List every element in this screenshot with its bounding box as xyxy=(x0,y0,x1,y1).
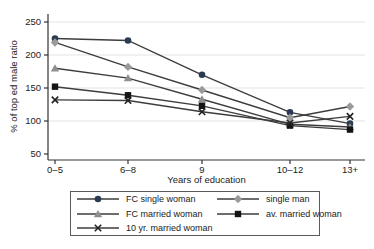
legend-label: single man xyxy=(266,194,310,204)
data-point-av-married-woman-13 xyxy=(347,126,353,132)
data-point-fc-single-woman-9 xyxy=(199,72,206,79)
y-tick-label-250: 250 xyxy=(25,16,41,27)
y-axis-title: % of top ed male ratio xyxy=(8,17,19,157)
data-point-av-married-woman-0-5 xyxy=(52,83,58,89)
legend-entry-single-man: single man xyxy=(216,192,342,206)
legend-label: 10 yr. married woman xyxy=(126,223,213,233)
legend-entry-fc-single-woman: FC single woman xyxy=(76,192,216,206)
chart-figure: 501001502002500–56–8910–1213+ % of top e… xyxy=(0,0,374,249)
y-tick-label-100: 100 xyxy=(25,115,41,126)
legend-label: FC married woman xyxy=(126,209,203,219)
data-point-single-man-6-8 xyxy=(124,63,132,71)
legend-marker-sample xyxy=(235,210,241,216)
legend-marker-square-icon xyxy=(216,208,260,220)
legend-marker-triangle-icon xyxy=(76,208,120,220)
chart-legend: FC single womansingle manFC married woma… xyxy=(70,191,320,236)
y-tick-label-50: 50 xyxy=(30,148,41,159)
legend-marker-sample xyxy=(234,195,242,203)
x-axis-title: Years of education xyxy=(48,174,365,185)
data-point-fc-married-woman-0-5 xyxy=(51,64,59,71)
legend-entry-10-yr-married-woman: 10 yr. married woman xyxy=(76,221,216,235)
data-point-fc-single-woman-6-8 xyxy=(125,37,132,44)
legend-marker-diamond-icon xyxy=(216,193,260,205)
legend-marker-sample xyxy=(95,196,102,203)
legend-marker-x-icon xyxy=(76,222,120,234)
y-tick-label-150: 150 xyxy=(25,82,41,93)
legend-entry-fc-married-woman: FC married woman xyxy=(76,207,216,221)
legend-marker-circle-icon xyxy=(76,193,120,205)
legend-entry-av-married-woman: av. married woman xyxy=(216,207,342,221)
data-point-single-man-9 xyxy=(198,86,206,94)
data-point-av-married-woman-9 xyxy=(199,103,205,109)
y-tick-label-200: 200 xyxy=(25,49,41,60)
legend-label: FC single woman xyxy=(126,194,196,204)
legend-label: av. married woman xyxy=(266,209,342,219)
data-point-single-man-13 xyxy=(346,102,354,110)
